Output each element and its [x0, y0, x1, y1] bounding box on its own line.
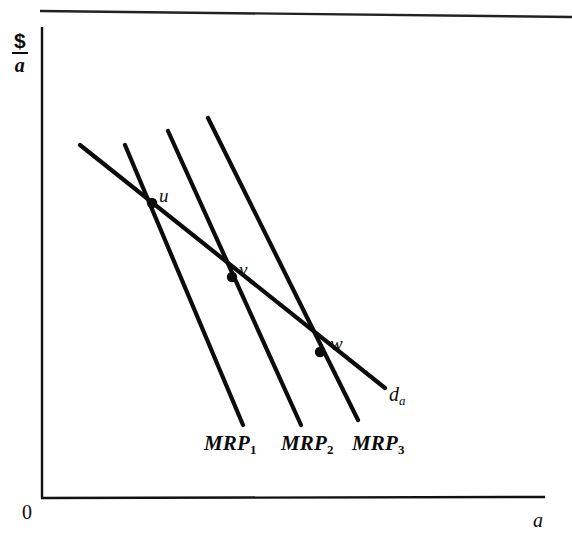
y-axis-label-numerator: $ [12, 30, 28, 54]
top-rule [40, 11, 572, 17]
curve-label-da-text: d [389, 383, 399, 405]
y-axis-label-denominator: a [12, 54, 28, 75]
curve-label-da-subscript: a [399, 393, 406, 408]
x-axis-label: a [533, 510, 543, 530]
plot-canvas [0, 0, 572, 546]
curve-label-mrp1: MRP1 [204, 433, 257, 456]
economics-figure: $ a 0 a u v w MRP1 MRP2 MRP3 da [0, 0, 572, 546]
point-v [227, 272, 237, 282]
y-axis-label: $ a [12, 30, 28, 75]
point-w [315, 347, 325, 357]
curve-label-mrp2-subscript: 2 [327, 442, 334, 457]
point-label-v: v [239, 260, 247, 279]
curve-label-mrp1-text: MRP [204, 431, 250, 455]
point-label-u: u [159, 186, 169, 205]
curve-label-mrp3-text: MRP [352, 431, 398, 455]
curve-label-mrp1-subscript: 1 [250, 442, 257, 457]
curve-mrp1 [125, 145, 243, 425]
origin-label: 0 [22, 502, 32, 522]
curve-label-mrp2-text: MRP [281, 431, 327, 455]
curve-label-mrp2: MRP2 [281, 433, 334, 456]
curve-label-mrp3: MRP3 [352, 433, 405, 456]
point-u [147, 198, 157, 208]
point-label-w: w [330, 334, 343, 353]
curve-label-mrp3-subscript: 3 [398, 442, 405, 457]
curve-label-da: da [389, 384, 406, 407]
x-axis-line [41, 497, 545, 498]
